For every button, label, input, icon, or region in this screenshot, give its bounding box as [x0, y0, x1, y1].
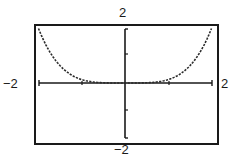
window-xmin-label: −2 [3, 77, 18, 90]
graphing-calculator-window: 2 −2 −2 2 [0, 0, 235, 160]
window-ymin-label: −2 [114, 143, 129, 156]
window-ymax-label: 2 [119, 6, 126, 19]
window-frame [35, 25, 218, 144]
plot-area [0, 0, 235, 160]
window-xmax-label: 2 [221, 77, 228, 90]
